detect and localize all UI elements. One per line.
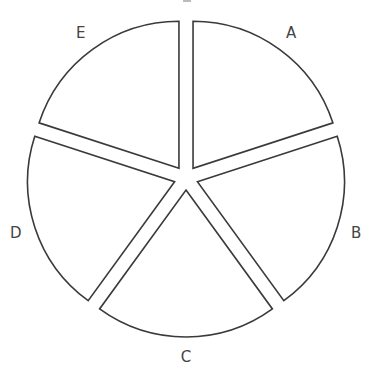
slice-label-b: B — [351, 224, 361, 242]
pie-slices — [28, 21, 345, 337]
slice-label-a: A — [286, 24, 297, 42]
slice-label-d: D — [10, 224, 22, 242]
pie-chart: ABCDE — [0, 0, 374, 378]
title-remnant — [183, 0, 191, 2]
slice-label-e: E — [76, 24, 85, 42]
slice-label-c: C — [181, 348, 191, 366]
